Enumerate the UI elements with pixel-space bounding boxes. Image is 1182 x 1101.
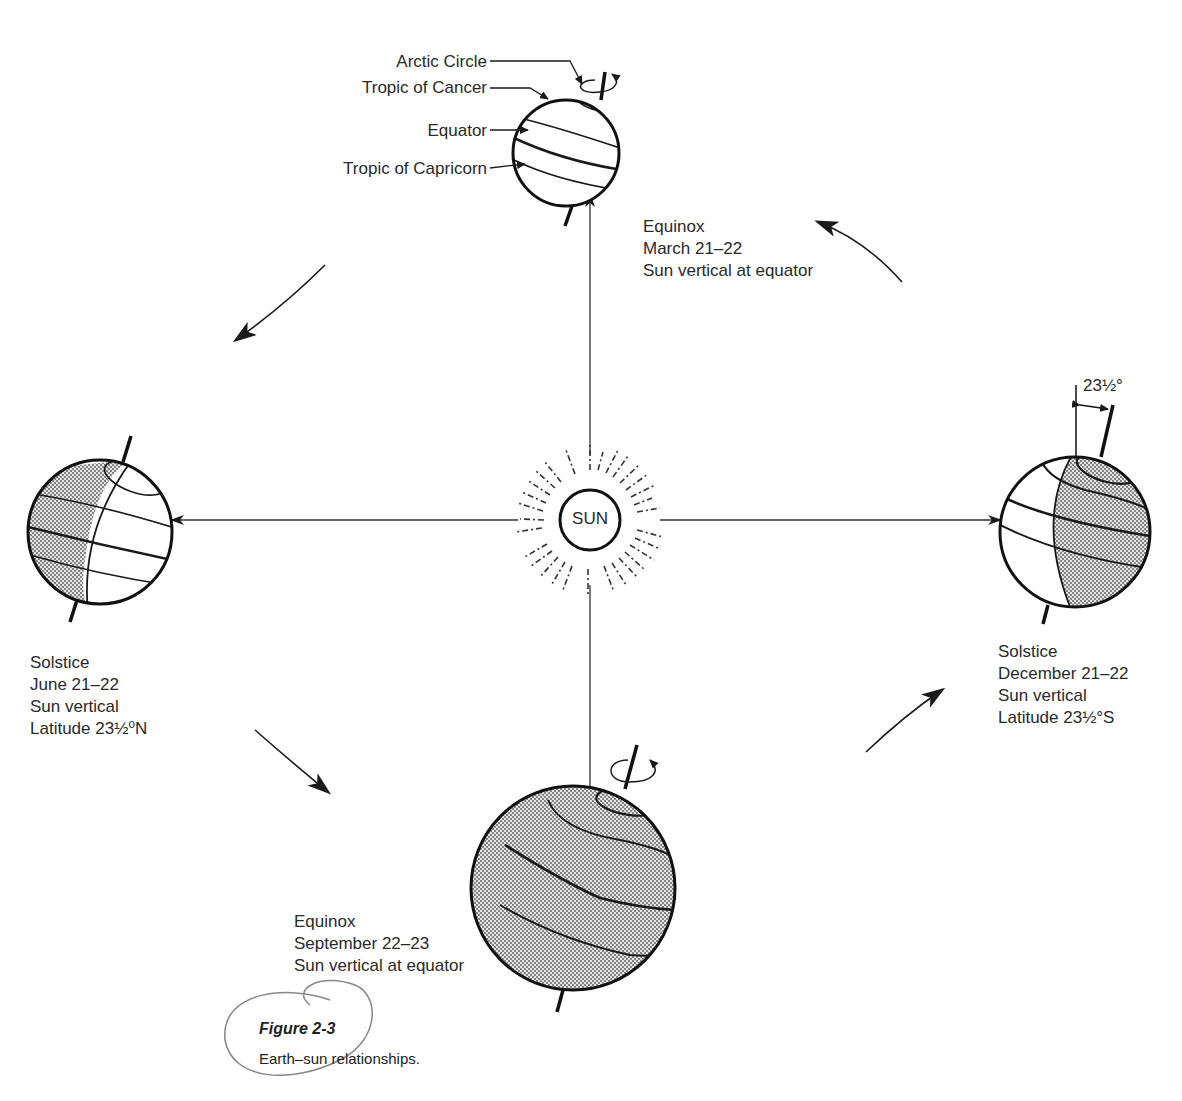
september-line-2: September 22–23: [294, 933, 464, 955]
march-line-1: Equinox: [643, 216, 813, 238]
sun-label: SUN: [560, 509, 620, 529]
march-line-3: Sun vertical at equator: [643, 260, 813, 282]
march-line-2: March 21–22: [643, 238, 813, 260]
label-tropic-of-capricorn: Tropic of Capricorn: [343, 158, 487, 179]
orbit-arrow-ne: [818, 222, 902, 282]
axial-tilt-label: 23½°: [1083, 376, 1123, 396]
june-line-4: Latitude 23½⁰N: [30, 718, 147, 740]
december-line-4: Latitude 23½°S: [998, 707, 1128, 729]
globe-march-equinox: [510, 72, 622, 226]
june-solstice-text: Solstice June 21–22 Sun vertical Latitud…: [30, 652, 147, 740]
june-line-2: June 21–22: [30, 674, 147, 696]
earth-sun-diagram: [0, 0, 1182, 1101]
december-line-2: December 21–22: [998, 663, 1128, 685]
globe-june-solstice: [20, 436, 175, 622]
figure-title: Figure 2-3: [259, 1020, 335, 1038]
globe-december-solstice: [995, 385, 1155, 624]
december-line-1: Solstice: [998, 641, 1128, 663]
june-line-3: Sun vertical: [30, 696, 147, 718]
december-line-3: Sun vertical: [998, 685, 1128, 707]
globe-september-equinox: [470, 745, 680, 1012]
september-equinox-text: Equinox September 22–23 Sun vertical at …: [294, 911, 464, 977]
orbit-arrow-nw: [236, 265, 325, 340]
june-line-1: Solstice: [30, 652, 147, 674]
label-equator: Equator: [427, 120, 487, 141]
september-line-1: Equinox: [294, 911, 464, 933]
december-solstice-text: Solstice December 21–22 Sun vertical Lat…: [998, 641, 1128, 729]
label-tropic-of-cancer: Tropic of Cancer: [362, 77, 487, 98]
orbit-arrow-sw: [255, 730, 328, 792]
march-equinox-text: Equinox March 21–22 Sun vertical at equa…: [643, 216, 813, 282]
september-line-3: Sun vertical at equator: [294, 955, 464, 977]
label-arctic-circle: Arctic Circle: [396, 51, 487, 72]
figure-caption: Earth–sun relationships.: [259, 1050, 420, 1067]
orbit-arrow-se: [866, 690, 942, 752]
